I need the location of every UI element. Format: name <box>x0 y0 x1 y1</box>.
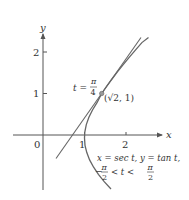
x-tick-label-1: 1 <box>79 139 85 150</box>
interval-left-den: 2 <box>102 173 107 182</box>
interval-right-num: π <box>147 163 154 172</box>
y-tick-label-2: 2 <box>33 47 39 58</box>
interval-right-den: 2 <box>148 173 153 182</box>
param-num: π <box>90 77 97 86</box>
origin-label: 0 <box>34 139 40 150</box>
interval-mid: < t < <box>111 167 134 177</box>
interval-left-num: π <box>101 163 108 172</box>
param-label: t = <box>73 83 87 93</box>
equation-line: x = sec t, y = tan t, <box>97 153 180 163</box>
y-axis-label: y <box>39 22 46 33</box>
point-coords: (√2, 1) <box>104 93 134 103</box>
x-tick-label-2: 2 <box>122 139 128 150</box>
y-tick-label-1: 1 <box>33 88 39 99</box>
x-axis-label: x <box>166 129 172 140</box>
param-den: 4 <box>91 88 96 97</box>
hyperbola-tangent-diagram: y x 0 1 2 1 2 t = π 4 (√2, 1) x = sec t,… <box>0 0 189 200</box>
